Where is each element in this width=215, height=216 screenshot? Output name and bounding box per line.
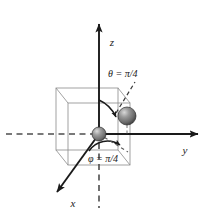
z-axis-label: z xyxy=(109,36,115,48)
spherical-coordinates-figure: z y x θ = π/4 φ = π/4 xyxy=(0,0,215,216)
positioned-particle xyxy=(118,107,136,125)
theta-label: θ = π/4 xyxy=(108,68,137,79)
cube-edge-bl xyxy=(56,150,68,165)
diagram-canvas: z y x θ = π/4 φ = π/4 xyxy=(0,0,215,216)
x-axis-label: x xyxy=(70,197,76,209)
origin-particle xyxy=(92,127,106,141)
phi-label: φ = π/4 xyxy=(88,153,118,164)
cube-edge-br xyxy=(118,150,130,165)
y-axis-label: y xyxy=(182,144,188,156)
theta-arc xyxy=(99,100,116,117)
cube-edge-tl xyxy=(56,88,68,103)
